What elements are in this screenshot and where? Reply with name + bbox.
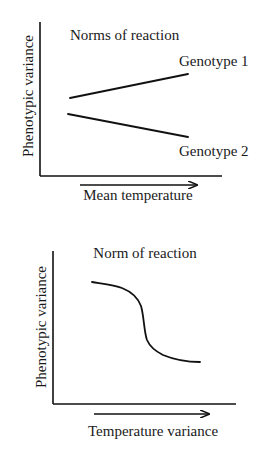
bottom-chart: Norm of reaction Temperature variance Ph…: [33, 245, 236, 439]
diagram-canvas: Norms of reaction Genotype 1 Genotype 2 …: [0, 0, 264, 457]
genotype-1-line: [70, 74, 188, 98]
genotype-2-line: [68, 114, 188, 137]
bottom-x-label: Temperature variance: [88, 423, 218, 439]
top-x-label: Mean temperature: [83, 187, 193, 203]
top-chart-title: Norms of reaction: [70, 27, 180, 43]
bottom-chart-title: Norm of reaction: [93, 245, 197, 261]
norm-of-reaction-curve: [92, 282, 200, 362]
genotype-1-label: Genotype 1: [179, 53, 249, 69]
top-chart: Norms of reaction Genotype 1 Genotype 2 …: [20, 22, 249, 203]
genotype-2-label: Genotype 2: [179, 143, 249, 159]
top-y-label: Phenotypic variance: [20, 35, 36, 157]
bottom-y-label: Phenotypic variance: [33, 266, 49, 388]
